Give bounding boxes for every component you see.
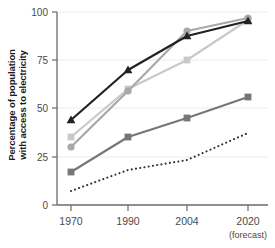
- y-tick-label-75: 75: [37, 55, 49, 66]
- x-tick-label-1990: 1990: [116, 215, 140, 227]
- series-dark-square-marker: [245, 94, 252, 101]
- series-dark-square-marker: [68, 169, 75, 176]
- x-tick-sublabel-forecast: (forecast): [229, 230, 267, 240]
- x-tick-label-2004: 2004: [175, 215, 199, 227]
- series-mid-circle-marker: [67, 143, 74, 150]
- y-tick-label-25: 25: [37, 152, 49, 163]
- y-axis-ticks: [52, 12, 57, 205]
- series-dark-triangle: [67, 16, 253, 123]
- x-axis-ticks: [71, 205, 248, 211]
- series-mid-circle-marker: [124, 87, 131, 94]
- y-tick-label-100: 100: [31, 7, 48, 18]
- x-tick-label-1970: 1970: [59, 215, 83, 227]
- series-dark-square: [68, 94, 252, 176]
- series-dark-square-marker: [184, 115, 191, 122]
- y-tick-label-0: 0: [42, 200, 48, 211]
- series-dotted: [71, 133, 248, 191]
- series-dark-square-marker: [125, 134, 132, 141]
- series-dotted-line: [71, 133, 248, 191]
- series-light-square-marker: [68, 134, 75, 141]
- line-chart-plot: 100 75 50 25 0 1970 1990 2004 2020 (fore…: [0, 0, 275, 248]
- series-light-square-marker: [184, 57, 191, 64]
- x-tick-label-2020: 2020: [236, 215, 260, 227]
- y-tick-label-50: 50: [37, 103, 49, 114]
- chart-container: Percentage of population with access to …: [0, 0, 275, 248]
- gridlines: [57, 12, 268, 157]
